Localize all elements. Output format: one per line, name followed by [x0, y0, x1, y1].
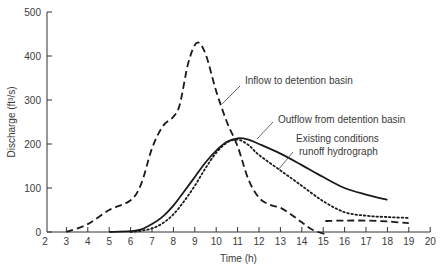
x-tick-label: 3: [64, 236, 70, 247]
x-tick-label: 16: [339, 236, 351, 247]
x-axis-label: Time (h): [220, 253, 257, 264]
annotations: Inflow to detention basin Outflow from d…: [222, 75, 405, 170]
series-inflow-to-detention-basin: [66, 43, 325, 235]
y-tick-label: 200: [24, 139, 41, 150]
x-tick-label: 18: [382, 236, 394, 247]
existing-annotation-line2: runoff hydrograph: [299, 146, 378, 157]
x-tick-label: 15: [318, 236, 330, 247]
y-axis-label: Discharge (ft³/s): [6, 86, 17, 157]
x-tick-label: 14: [296, 236, 308, 247]
y-tick-label: 400: [24, 51, 41, 62]
y-tick-label: 100: [24, 183, 41, 194]
x-tick-label: 20: [425, 236, 437, 247]
x-tick-label: 6: [128, 236, 134, 247]
existing-annotation-line1: Existing conditions: [296, 133, 379, 144]
y-tick-label: 500: [24, 7, 41, 18]
inflow-annotation: Inflow to detention basin: [245, 75, 353, 86]
x-tick-label: 19: [403, 236, 415, 247]
hydrograph-chart: 0100200300400500234567891011121314151617…: [0, 0, 440, 267]
inflow-leader-line: [222, 86, 240, 104]
outflow-leader-line: [257, 122, 273, 139]
x-tick-label: 9: [192, 236, 198, 247]
y-tick-label: 0: [35, 227, 41, 238]
existing-leader-line: [278, 152, 293, 170]
outflow-annotation: Outflow from detention basin: [278, 114, 405, 125]
x-tick-label: 7: [149, 236, 155, 247]
y-tick-label: 300: [24, 95, 41, 106]
x-tick-label: 5: [106, 236, 112, 247]
x-tick-label: 17: [360, 236, 372, 247]
axes: 0100200300400500234567891011121314151617…: [24, 7, 436, 248]
x-tick-label: 4: [85, 236, 91, 247]
x-tick-label: 2: [42, 236, 48, 247]
x-tick-label: 11: [232, 236, 243, 247]
x-tick-label: 8: [171, 236, 177, 247]
x-tick-label: 12: [253, 236, 265, 247]
x-tick-label: 10: [211, 236, 223, 247]
x-tick-label: 13: [275, 236, 287, 247]
series-inflow-tail-dashed-: [325, 220, 408, 223]
